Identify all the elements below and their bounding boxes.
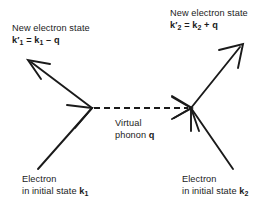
new-state-left-q: q [54, 35, 60, 45]
label-electron-initial-left: Electron in initial state k1 [22, 174, 88, 199]
label-electron-initial-right: Electron in initial state k2 [182, 174, 248, 199]
virtual-phonon-line2: phonon q [115, 130, 155, 142]
outgoing-right-shaft [191, 47, 240, 108]
label-new-electron-state-left: New electron state k′1 = k1 – q [12, 23, 90, 48]
electron-left-state-text: in initial state [22, 186, 79, 196]
incoming-left-arrowhead [67, 105, 92, 128]
new-state-right-equals: = [182, 20, 193, 30]
new-state-left-line1: New electron state [12, 23, 90, 35]
virtual-phonon-q-symbol: q [149, 130, 155, 140]
electron-left-subscript: 1 [84, 189, 88, 196]
electron-left-line1: Electron [22, 174, 88, 186]
electron-right-line1: Electron [182, 174, 248, 186]
incoming-right-shaft [191, 108, 233, 169]
outgoing-left-shaft [31, 62, 92, 108]
new-state-left-operator: – [43, 35, 54, 45]
new-state-right-q: q [212, 20, 218, 30]
new-state-right-operator: + [201, 20, 212, 30]
new-state-left-formula: k′1 = k1 – q [12, 35, 90, 48]
incoming-electron-line-right [191, 108, 233, 169]
virtual-phonon-word: phonon [115, 130, 149, 140]
incoming-electron-line-left [38, 105, 92, 169]
new-state-right-formula: k′2 = k2 + q [170, 20, 248, 33]
outgoing-electron-line-left [28, 60, 92, 108]
right-vertex-whisker-upper-left [172, 97, 191, 108]
electron-right-subscript: 2 [244, 189, 248, 196]
label-new-electron-state-right: New electron state k′2 = k2 + q [170, 8, 248, 33]
right-vertex-whiskers [172, 97, 191, 131]
right-vertex-whisker-lower-left [174, 108, 191, 118]
electron-right-line2: in initial state k2 [182, 186, 248, 199]
feynman-diagram-canvas: New electron state k′1 = k1 – q New elec… [0, 0, 278, 214]
outgoing-electron-line-right [191, 44, 243, 108]
electron-left-line2: in initial state k1 [22, 186, 88, 199]
virtual-phonon-line1: Virtual [115, 118, 155, 130]
new-state-left-equals: = [24, 35, 35, 45]
new-state-right-line1: New electron state [170, 8, 248, 20]
label-virtual-phonon: Virtual phonon q [115, 118, 155, 141]
electron-right-state-text: in initial state [182, 186, 239, 196]
